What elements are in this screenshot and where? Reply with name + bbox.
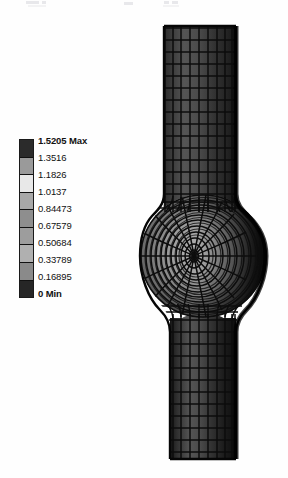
scan-artifact-strip [0,0,288,10]
legend-band-5 [20,193,33,211]
legend-band-0 [20,281,33,298]
lower-pipe-body [170,318,236,460]
legend-band-3 [20,228,33,246]
legend-label-6: 0.50684 [38,238,72,248]
legend-band-6 [20,175,33,193]
legend-label-4: 0.84473 [38,204,72,214]
result-canvas: 1.5205 Max 1.3516 1.1826 1.0137 0.84473 … [0,0,288,478]
legend-label-8: 0.16895 [38,272,72,282]
legend-label-1: 1.3516 [38,153,66,163]
legend-band-8 [20,140,33,158]
legend-label-2: 1.1826 [38,170,66,180]
model-svg [138,18,283,468]
meshed-pipe-model [138,18,283,468]
legend-label-3: 1.0137 [38,187,66,197]
legend-tick-labels: 1.5205 Max 1.3516 1.1826 1.0137 0.84473 … [38,134,130,304]
legend-band-7 [20,158,33,176]
legend-label-min: 0 Min [38,289,62,299]
legend-band-4 [20,210,33,228]
legend-band-1 [20,263,33,281]
contour-legend: 1.5205 Max 1.3516 1.1826 1.0137 0.84473 … [19,139,129,299]
legend-band-2 [20,245,33,263]
legend-label-7: 0.33789 [38,255,72,265]
legend-color-bar [19,139,34,298]
legend-label-5: 0.67579 [38,221,72,231]
legend-label-max: 1.5205 Max [38,136,87,146]
